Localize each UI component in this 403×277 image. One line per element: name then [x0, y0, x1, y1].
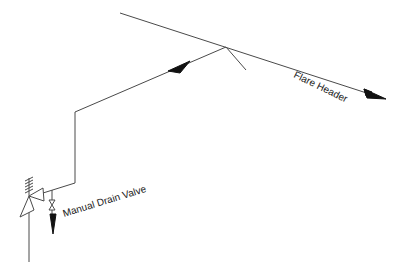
piping-diagram: Manual Drain Valve Flare Header — [0, 0, 403, 277]
relief-discharge-line — [43, 47, 246, 193]
flow-arrow-icon — [168, 61, 190, 73]
manual-drain-valve — [49, 190, 56, 234]
gate-valve-lower-icon — [49, 205, 55, 210]
spring-icon — [25, 177, 33, 193]
drain-arrow-icon — [50, 214, 56, 234]
discharge-pipe — [43, 47, 246, 193]
flare-header-pipe — [120, 13, 382, 98]
flare-header — [120, 13, 386, 99]
flare-header-label: Flare Header — [292, 69, 350, 105]
flow-arrow-icon — [364, 89, 386, 99]
valve-inlet-triangle — [20, 196, 34, 217]
relief-valve — [20, 177, 44, 217]
drain-valve-label: Manual Drain Valve — [61, 183, 147, 219]
